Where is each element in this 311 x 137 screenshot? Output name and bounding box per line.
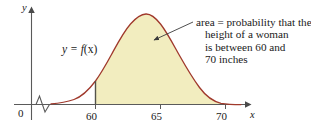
tick-label-70: 70 <box>216 111 227 122</box>
tick-label-65: 65 <box>151 111 162 122</box>
curve-equation-label: y = f(x) <box>62 44 97 56</box>
probability-density-figure: area = probability that the height of a … <box>0 0 311 137</box>
tick-label-60: 60 <box>86 111 97 122</box>
x-axis-label: x <box>250 110 255 121</box>
annotation-line-3: is between 60 and <box>196 41 311 53</box>
y-axis-label: y <box>22 3 27 14</box>
curve-equation-argument: (x) <box>84 43 97 55</box>
annotation-line-1: area = probability that the <box>196 16 311 28</box>
curve-equation-prefix: y = <box>62 43 81 55</box>
origin-label: 0 <box>18 108 24 119</box>
area-annotation-text: area = probability that the height of a … <box>196 16 311 66</box>
annotation-line-2: height of a woman <box>196 28 311 40</box>
annotation-line-4: 70 inches <box>196 53 311 65</box>
